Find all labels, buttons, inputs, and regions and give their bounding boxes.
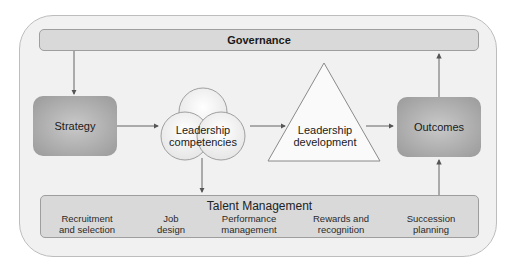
leadership-competencies-label: Leadership competencies bbox=[158, 124, 248, 148]
diagram-shapes bbox=[0, 0, 516, 271]
leadership-development-label: Leadership development bbox=[280, 124, 370, 148]
